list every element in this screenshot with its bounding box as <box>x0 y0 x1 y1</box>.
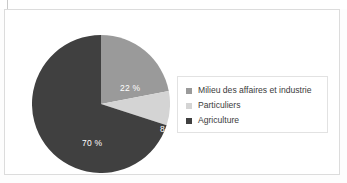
legend-color-swatch-icon <box>186 88 192 94</box>
pie-chart-svg <box>32 35 170 173</box>
chart-figure-frame: 22 % 8 % 70 % Milieu des affaires et ind… <box>4 9 340 175</box>
legend-item-label: Particuliers <box>198 101 241 110</box>
legend-item-milieu-des-affaires-et-industrie[interactable]: Milieu des affaires et industrie <box>186 83 320 98</box>
legend-item-particuliers[interactable]: Particuliers <box>186 98 320 113</box>
legend-color-swatch-icon <box>186 103 192 109</box>
legend-item-agriculture[interactable]: Agriculture <box>186 113 320 128</box>
chart-legend: Milieu des affaires et industrie Particu… <box>177 76 328 133</box>
legend-item-label: Milieu des affaires et industrie <box>198 86 312 95</box>
legend-color-swatch-icon <box>186 118 192 124</box>
legend-item-label: Agriculture <box>198 116 239 125</box>
scan-top-margin <box>0 0 347 9</box>
pie-chart: 22 % 8 % 70 % <box>32 35 170 173</box>
